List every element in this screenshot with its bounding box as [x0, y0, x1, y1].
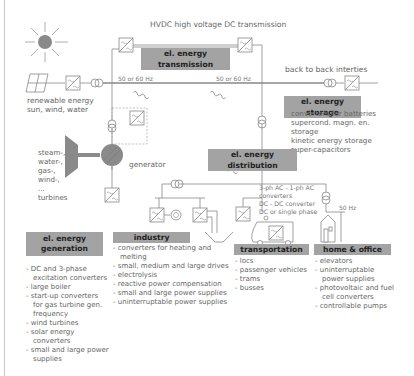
transportation-list: locs passenger vehicles trams busses	[235, 257, 310, 293]
converters-note-line: 3-ph AC - 1-ph AC	[259, 184, 317, 192]
distribution-header: el. energy distribution	[208, 149, 297, 171]
generation-header-line: el. energy	[26, 234, 103, 244]
converter-icon	[193, 208, 207, 222]
home-office-item: elevators	[315, 257, 397, 266]
renewable-label-line2: sun, wind, water	[27, 106, 88, 115]
turbine-types: steam-, water-, gas-, wind-, ... turbine…	[38, 148, 68, 202]
industry-list: converters for heating and melting small…	[113, 244, 233, 307]
frequency-label-right: 50 or 60 Hz	[216, 75, 251, 84]
converter-icon	[236, 207, 250, 221]
converter-icon	[66, 76, 80, 90]
storage-item: storage	[291, 127, 376, 136]
home-office-item: uninterruptable power supplies	[315, 266, 397, 284]
industry-item: uninterruptable power supplies	[113, 298, 233, 307]
hvdc-converter-icon	[119, 38, 133, 52]
converters-note-line: DC or single phase	[259, 208, 317, 216]
generation-header: el. energy generation	[26, 232, 103, 256]
home-office-header: home & office	[314, 244, 391, 255]
storage-item: converters for batteries	[291, 109, 376, 118]
converters-note-line: DC - DC converter	[259, 200, 317, 208]
storage-list: converters for batteries supercond. magn…	[291, 109, 376, 154]
motor-icon	[171, 210, 181, 220]
industry-item: reactive power compensation	[113, 280, 233, 289]
storage-item: supercond. magn. en.	[291, 118, 376, 127]
sun-icon	[25, 22, 68, 62]
home-office-item: photovoltaic and fuel cell converters	[315, 284, 397, 302]
turbine-type: turbines	[38, 193, 68, 202]
transportation-item: locs	[235, 257, 310, 266]
ac-wave-icon	[133, 91, 149, 99]
turbine-type: ...	[38, 184, 68, 193]
home-office-list: elevators uninterruptable power supplies…	[315, 257, 397, 311]
converter-icon	[130, 111, 144, 125]
transportation-item: trams	[235, 275, 310, 284]
industry-item: small, medium and large drives	[113, 262, 233, 271]
converters-note: 3-ph AC - 1-ph AC converters DC - DC con…	[259, 184, 317, 216]
transformer-icon	[322, 192, 330, 204]
storage-item: kinetic energy storage	[291, 136, 376, 145]
transformer-icon	[91, 79, 103, 87]
turbine-type: water-,	[38, 157, 68, 166]
generation-list: DC and 3-phase excitation converters lar…	[26, 265, 110, 364]
generation-item: small and large power supplies	[26, 346, 110, 364]
converters-note-line: converters	[259, 192, 317, 200]
back-to-back-converter-icon	[345, 76, 359, 90]
frequency-label-left: 50 or 60 Hz	[118, 75, 153, 84]
generation-item: wind turbines	[26, 319, 110, 328]
generation-item: solar energy converters	[26, 328, 110, 346]
industry-item: electrolysis	[113, 271, 233, 280]
transportation-header: transportation	[234, 244, 309, 255]
ac-wave-icon	[210, 91, 226, 99]
turbine-type: steam-,	[38, 148, 68, 157]
generation-item: DC and 3-phase excitation converters	[26, 265, 110, 283]
industry-item: small and large power supplies	[113, 289, 233, 298]
furnace-icon	[205, 232, 233, 242]
transportation-item: busses	[235, 284, 310, 293]
generation-item: start-up converters for gas turbine gen.…	[26, 292, 110, 319]
home-office-item: controllable pumps	[315, 302, 397, 311]
house-icon	[321, 215, 335, 242]
back-to-back-label: back to back interties	[285, 66, 367, 75]
generator-label: generator	[129, 161, 166, 170]
home-frequency-label: 50 Hz	[339, 204, 356, 213]
turbine-type: wind-,	[38, 175, 68, 184]
hvdc-converter-icon	[238, 38, 252, 52]
industry-header: industry	[113, 232, 190, 243]
transformer-icon	[324, 79, 336, 87]
generator-icon	[101, 144, 123, 166]
converter-icon	[150, 208, 164, 222]
industry-item: converters for heating and melting	[113, 244, 233, 262]
excitation-converter-icon	[105, 188, 119, 202]
converter-icon	[269, 226, 283, 240]
generation-header-line: generation	[26, 244, 103, 254]
storage-item: super-capacitors	[291, 145, 376, 154]
hvdc-label: HVDC high voltage DC transmission	[150, 21, 286, 30]
transportation-item: passenger vehicles	[235, 266, 310, 275]
solar-panel-icon	[26, 74, 48, 92]
turbine-type: gas-,	[38, 166, 68, 175]
transmission-header: el. energy transmission	[141, 48, 230, 70]
generation-item: large boiler	[26, 283, 110, 292]
